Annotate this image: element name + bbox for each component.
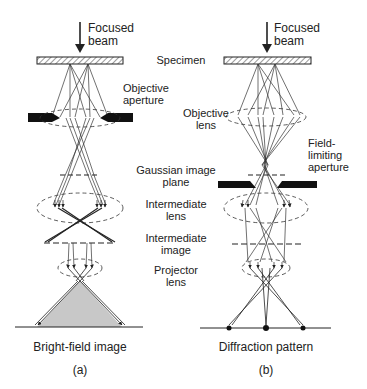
field-limiting-aperture-label: Field- limiting aperture: [308, 137, 349, 173]
focused-beam-label-b: Focused beam: [274, 22, 320, 48]
rays-b-lower: [245, 208, 286, 262]
intermediate-lens-line2: lens: [136, 210, 216, 222]
field-limiting-aperture-b: [218, 181, 317, 188]
focused-beam-arrow-icon: [75, 22, 85, 53]
panel-label-b: (b): [246, 364, 286, 376]
focused-beam-line2: beam: [274, 35, 320, 48]
diffraction-spot-right: [301, 326, 306, 331]
gaussian-line2: plane: [128, 176, 224, 188]
projector-arrows-b: [250, 262, 282, 268]
rays-a-lower: [45, 208, 115, 242]
focused-beam-arrow-icon: [262, 22, 272, 53]
gaussian-image-plane-label: Gaussian image plane: [128, 164, 224, 188]
projector-lens-b: [242, 259, 290, 277]
rays-a-mid: [53, 118, 106, 205]
rays-b-upper: [238, 64, 300, 115]
panel-label-a: (a): [60, 364, 100, 376]
intermediate-image-line1: Intermediate: [136, 232, 216, 244]
rays-b-final: [229, 268, 303, 325]
field-limiting-line1: Field-: [308, 137, 349, 149]
panel-a: [15, 22, 143, 327]
gaussian-line1: Gaussian image: [128, 164, 224, 176]
rays-a-projector: [68, 243, 92, 268]
bright-field-image-label: Bright-field image: [20, 341, 140, 353]
diffraction-pattern-label: Diffraction pattern: [196, 341, 336, 353]
objective-lens-line1: Objective: [176, 107, 236, 119]
objective-lens-line2: lens: [176, 119, 236, 131]
bright-field-image-fill: [37, 281, 122, 327]
specimen-label: Specimen: [140, 54, 222, 66]
objective-aperture-label: Objective aperture: [123, 82, 169, 106]
diffraction-spot-center: [263, 325, 269, 331]
objective-lens-label: Objective lens: [176, 107, 236, 131]
lens-arrows-b: [242, 200, 290, 207]
focused-beam-label-a: Focused beam: [88, 22, 134, 48]
specimen-a: [37, 57, 123, 64]
intermediate-image-line2: image: [136, 244, 216, 256]
projector-lens-label: Projector lens: [136, 264, 216, 288]
specimen-b: [224, 57, 311, 64]
focused-beam-line2: beam: [88, 35, 134, 48]
intermediate-lens-label: Intermediate lens: [136, 198, 216, 222]
tem-ray-diagram: Focused beam Bright-field image (a) Focu…: [0, 0, 367, 389]
intermediate-lens-b: [224, 193, 308, 223]
objective-aperture-line1: Objective: [123, 82, 169, 94]
intermediate-lens-a: [37, 193, 123, 223]
projector-lens-line2: lens: [136, 276, 216, 288]
rays-b-mid: [238, 117, 300, 205]
intermediate-image-label: Intermediate image: [136, 232, 216, 256]
projector-lens-a: [58, 259, 102, 277]
intermediate-lens-line1: Intermediate: [136, 198, 216, 210]
lens-arrows-a: [55, 200, 105, 207]
objective-aperture-line2: aperture: [123, 94, 169, 106]
projector-lens-line1: Projector: [136, 264, 216, 276]
field-limiting-line2: limiting: [308, 149, 349, 161]
diffraction-spot-left: [227, 326, 232, 331]
field-limiting-line3: aperture: [308, 161, 349, 173]
